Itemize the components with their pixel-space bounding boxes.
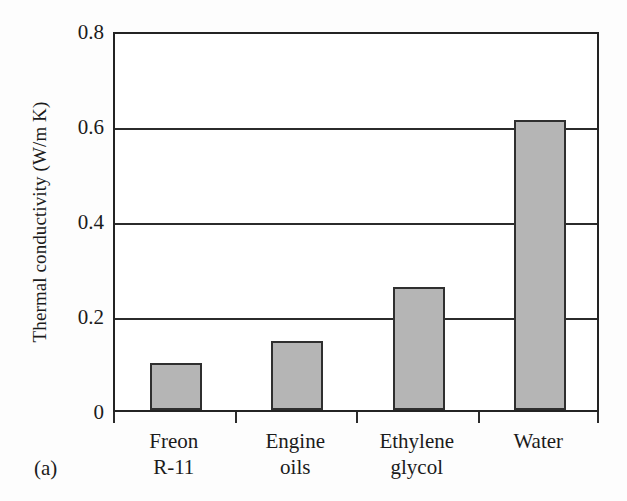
x-axis-label: Engineoils [235,428,357,480]
x-tick [113,412,115,423]
bar[interactable] [514,120,566,410]
plot-area [113,32,599,412]
x-tick [235,412,237,423]
x-tick [597,412,599,423]
bar[interactable] [393,287,445,411]
bar-series [115,34,597,410]
bar-slot [480,34,602,410]
y-tick-label: 0.4 [52,212,104,233]
bar-slot [115,34,237,410]
x-tick [478,412,480,423]
x-axis-label: FreonR-11 [113,428,235,480]
bar-slot [237,34,359,410]
x-axis-label-line1: Freon [113,428,235,454]
x-tick [356,412,358,423]
x-axis-label-line1: Water [478,428,600,454]
y-tick-label: 0.8 [52,22,104,43]
x-axis-label-line2: R-11 [113,454,235,480]
bar-slot [358,34,480,410]
x-axis-label-line1: Ethylene [356,428,478,454]
bar[interactable] [150,363,202,411]
y-tick-label: 0 [52,402,104,423]
chart-figure: Thermal conductivity (W/m K) 00.20.40.60… [0,0,627,501]
x-axis-label: Ethyleneglycol [356,428,478,480]
x-axis-label: Water [478,428,600,454]
x-axis-category-labels: FreonR-11EngineoilsEthyleneglycolWater [113,428,599,490]
x-axis-label-line1: Engine [235,428,357,454]
panel-caption: (a) [34,455,57,481]
bar[interactable] [271,341,323,410]
y-axis-tick-labels: 00.20.40.60.8 [52,0,104,501]
x-axis-label-line2: glycol [356,454,478,480]
x-axis-label-line2: oils [235,454,357,480]
y-tick-label: 0.2 [52,307,104,328]
y-axis-title: Thermal conductivity (W/m K) [28,32,52,412]
x-axis-ticks [113,412,599,424]
y-tick-label: 0.6 [52,117,104,138]
